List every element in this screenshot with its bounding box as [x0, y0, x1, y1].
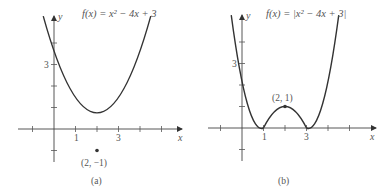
x-tick-label-3: 3	[116, 133, 121, 143]
panel-b: y x 3 1 3 (2, 1) f(x) = |x² − 4x + 3| (b…	[208, 8, 376, 187]
abs-parabola-left	[231, 15, 263, 128]
x-tick-label-3: 3	[304, 132, 309, 142]
panel-caption: (a)	[91, 176, 102, 187]
x-axis-label: x	[369, 131, 375, 142]
x-tick-label-1: 1	[74, 133, 79, 143]
x-tick-label-1: 1	[262, 132, 267, 142]
peak-label: (2, 1)	[272, 93, 293, 104]
abs-parabola-right	[307, 15, 339, 128]
panel-caption: (b)	[278, 176, 289, 187]
x-axis-label: x	[177, 132, 183, 143]
figure: y x 3 1 3 (2, −1) f(x) = x² − 4x + 3 (a)	[0, 0, 384, 194]
vertex-label: (2, −1)	[81, 158, 107, 169]
parabola-curve	[43, 16, 151, 113]
function-title: f(x) = |x² − 4x + 3|	[266, 8, 346, 20]
y-axis-label: y	[245, 10, 251, 21]
abs-parabola-middle	[264, 107, 307, 129]
vertex-point	[95, 149, 99, 153]
y-tick-label-3: 3	[44, 60, 49, 70]
peak-point	[283, 105, 287, 109]
panel-a: y x 3 1 3 (2, −1) f(x) = x² − 4x + 3 (a)	[18, 8, 183, 187]
function-title: f(x) = x² − 4x + 3	[82, 8, 157, 20]
y-tick-label-3: 3	[232, 59, 237, 69]
y-axis-label: y	[57, 11, 63, 22]
